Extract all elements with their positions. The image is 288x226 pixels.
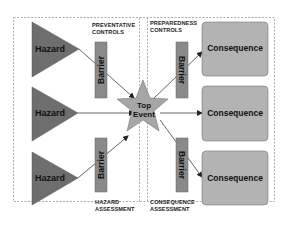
hazard-label: Hazard — [35, 173, 65, 183]
consequence-2: Consequence — [202, 86, 268, 141]
barrier-right-bottom: Barrier — [176, 138, 188, 192]
top-event-label-1: Top — [137, 101, 151, 110]
hazard-1: Hazard — [32, 22, 79, 77]
bowtie-diagram: Hazard Hazard Hazard Barrier Barrier Bar… — [0, 0, 288, 226]
barrier-label: Barrier — [177, 56, 187, 85]
hazard-3: Hazard — [32, 152, 78, 205]
top-event-label-2: Event — [133, 110, 155, 119]
consequence-label: Consequence — [207, 108, 263, 118]
barrier-label: Barrier — [177, 151, 187, 180]
barrier-left-top: Barrier — [95, 42, 107, 98]
hazard-assessment-label: HAZARD ASSESSMENT — [95, 199, 135, 213]
hazard-label: Hazard — [35, 44, 65, 54]
consequence-3: Consequence — [202, 151, 268, 205]
consequence-label: Consequence — [207, 43, 263, 53]
consequence-assessment-label: CONSEQUENCE ASSESSMENT — [150, 199, 195, 213]
barrier-label: Barrier — [96, 55, 106, 84]
hazard-label: Hazard — [35, 108, 65, 118]
preventative-controls-label: PREVENTATIVE CONTROLS — [92, 22, 135, 36]
barrier-left-bottom: Barrier — [95, 138, 107, 192]
consequence-1: Consequence — [202, 22, 268, 76]
consequence-label: Consequence — [207, 173, 263, 183]
barrier-right-top: Barrier — [176, 42, 188, 98]
hazard-2: Hazard — [32, 87, 78, 141]
barrier-label: Barrier — [96, 150, 106, 179]
top-event-star: Top Event — [117, 80, 168, 131]
preparedness-controls-label: PREPAREDNESS CONTROLS — [150, 20, 197, 34]
